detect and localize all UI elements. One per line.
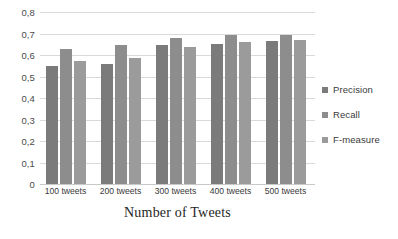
bar-group <box>46 12 86 184</box>
legend-label: F-measure <box>333 134 380 145</box>
y-axis-tick-label: 0,8 <box>21 7 35 18</box>
bar <box>184 47 196 184</box>
bar-group <box>266 12 306 184</box>
y-axis-tick-label: 0 <box>30 179 35 190</box>
x-axis: 100 tweets200 tweets300 tweets400 tweets… <box>40 186 315 202</box>
y-axis-tick-label: 0,3 <box>21 114 35 125</box>
x-axis-title: Number of Tweets <box>40 205 315 221</box>
y-axis-tick-label: 0,4 <box>21 93 35 104</box>
bar <box>266 41 278 184</box>
y-axis-tick-label: 0,7 <box>21 28 35 39</box>
axis-baseline <box>40 184 315 185</box>
bar <box>74 61 86 184</box>
legend-swatch-icon <box>322 112 328 118</box>
y-axis-tick-label: 0,6 <box>21 50 35 61</box>
bar <box>280 35 292 184</box>
bar <box>225 35 237 184</box>
y-axis-tick-label: 0,5 <box>21 71 35 82</box>
legend-item[interactable]: F-measure <box>322 134 398 145</box>
legend-swatch-icon <box>322 137 328 143</box>
y-axis: 0,80,70,60,50,40,30,20,10 <box>0 0 40 239</box>
bar <box>211 44 223 184</box>
bar <box>115 45 127 184</box>
bar-group <box>156 12 196 184</box>
bar-group <box>211 12 251 184</box>
bar <box>60 49 72 184</box>
x-axis-tick-label: 400 tweets <box>210 186 252 196</box>
bar-group <box>101 12 141 184</box>
bar <box>156 45 168 184</box>
legend: PrecisionRecallF-measure <box>322 84 398 159</box>
legend-swatch-icon <box>322 87 328 93</box>
bar <box>46 66 58 184</box>
bar <box>239 42 251 184</box>
y-axis-tick-label: 0,2 <box>21 136 35 147</box>
bar <box>101 64 113 184</box>
x-axis-tick-label: 500 tweets <box>265 186 307 196</box>
bar <box>129 58 141 184</box>
legend-label: Recall <box>333 109 360 120</box>
legend-item[interactable]: Precision <box>322 84 398 95</box>
legend-label: Precision <box>333 84 373 95</box>
x-axis-tick-label: 200 tweets <box>100 186 142 196</box>
bar-chart: 0,80,70,60,50,40,30,20,10 100 tweets200 … <box>0 0 398 239</box>
y-axis-tick-label: 0,1 <box>21 157 35 168</box>
legend-item[interactable]: Recall <box>322 109 398 120</box>
x-axis-tick-label: 300 tweets <box>155 186 197 196</box>
x-axis-tick-label: 100 tweets <box>45 186 87 196</box>
bar <box>294 40 306 184</box>
plot-area <box>40 12 315 184</box>
bar <box>170 38 182 184</box>
bars-layer <box>40 12 315 184</box>
